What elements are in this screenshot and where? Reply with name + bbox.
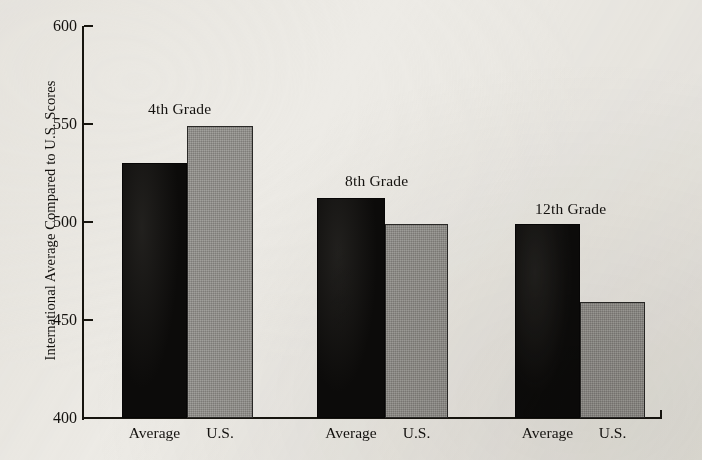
y-axis-tick-label: 450 xyxy=(33,312,77,328)
bar-8th-grade-average xyxy=(317,198,385,418)
x-axis-tick-label: U.S. xyxy=(367,424,466,442)
bar-8th-grade-us xyxy=(385,224,448,418)
y-axis-tick-label: 600 xyxy=(33,18,77,34)
x-axis-tick-label: U.S. xyxy=(562,424,663,442)
y-axis-line xyxy=(82,26,84,420)
bar-12th-grade-us xyxy=(580,302,645,418)
bar-chart-figure: International Average Compared to U.S. S… xyxy=(0,0,702,460)
y-axis-tick-mark xyxy=(84,319,93,321)
bar-4th-grade-us xyxy=(187,126,253,418)
bar-12th-grade-average xyxy=(515,224,580,418)
y-axis-tick-mark xyxy=(84,25,93,27)
y-axis-tick-label: 400 xyxy=(33,410,77,426)
y-axis-tick-mark xyxy=(84,221,93,223)
group-title-12th-grade: 12th Grade xyxy=(535,200,606,218)
group-title-8th-grade: 8th Grade xyxy=(345,172,408,190)
y-axis-tick-mark xyxy=(84,123,93,125)
y-axis-tick-label: 500 xyxy=(33,214,77,230)
x-axis-end-tick xyxy=(660,410,662,419)
x-axis-tick-label: U.S. xyxy=(169,424,271,442)
group-title-4th-grade: 4th Grade xyxy=(148,100,211,118)
bar-4th-grade-average xyxy=(122,163,187,418)
y-axis-tick-label: 550 xyxy=(33,116,77,132)
